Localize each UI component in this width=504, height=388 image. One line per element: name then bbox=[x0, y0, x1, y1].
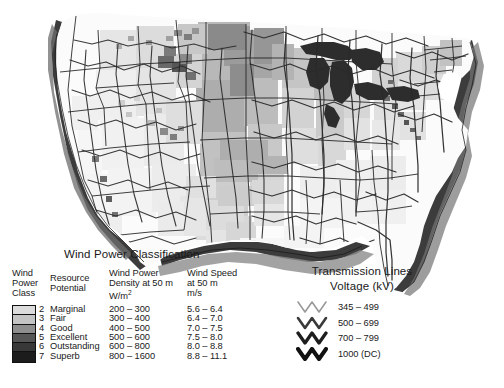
transmission-voltage-label: 700 – 799 bbox=[338, 333, 379, 343]
column-header-resource-potential: Resource Potential bbox=[50, 273, 89, 293]
density-header-text: Wind Power Density at 50 m W/m bbox=[109, 268, 173, 302]
wind-class-swatch-3 bbox=[13, 315, 35, 324]
transmission-voltage-label: 345 – 499 bbox=[338, 302, 379, 312]
column-header-wind-power-density: Wind Power Density at 50 m W/m2 bbox=[109, 268, 173, 302]
transmission-voltage-label: 1000 (DC) bbox=[338, 349, 380, 359]
transmission-line-symbol-icon bbox=[296, 331, 330, 346]
wind-class-color-scale bbox=[12, 305, 36, 363]
wind-class-power-density-7: 800 – 1600 bbox=[109, 352, 155, 361]
wind-class-wind-speed-7: 8.8 – 11.1 bbox=[187, 352, 227, 361]
wind-legend-title: Wind Power Classification bbox=[64, 248, 199, 260]
transmission-line-symbol-icon bbox=[296, 347, 330, 362]
transmission-lines-legend: Transmission Lines Voltage (kV) 345 – 49… bbox=[288, 264, 498, 384]
transmission-legend-title: Transmission Lines Voltage (kV) bbox=[288, 264, 436, 293]
wind-resource-map-page: Wind Power Classification Wind Power Cla… bbox=[0, 0, 504, 388]
transmission-line-symbol-icon bbox=[296, 316, 330, 331]
column-header-wind-power-class: Wind Power Class bbox=[12, 268, 38, 299]
wind-class-swatch-4 bbox=[13, 325, 35, 334]
wind-class-resource-potential-7: Superb bbox=[50, 352, 80, 361]
wind-class-swatch-2 bbox=[13, 306, 35, 315]
wind-class-swatch-6 bbox=[13, 343, 35, 352]
column-header-wind-speed: Wind Speed at 50 m m/s bbox=[187, 268, 237, 299]
transmission-line-symbol-icon bbox=[296, 300, 330, 315]
wind-class-potential-class-7: 7 bbox=[39, 352, 44, 361]
wind-class-swatch-5 bbox=[13, 334, 35, 343]
wind-power-classification-legend: Wind Power Classification Wind Power Cla… bbox=[8, 248, 270, 386]
transmission-voltage-label: 500 – 699 bbox=[338, 318, 379, 328]
wind-class-swatch-7 bbox=[13, 352, 35, 361]
density-unit-superscript: 2 bbox=[128, 289, 132, 296]
